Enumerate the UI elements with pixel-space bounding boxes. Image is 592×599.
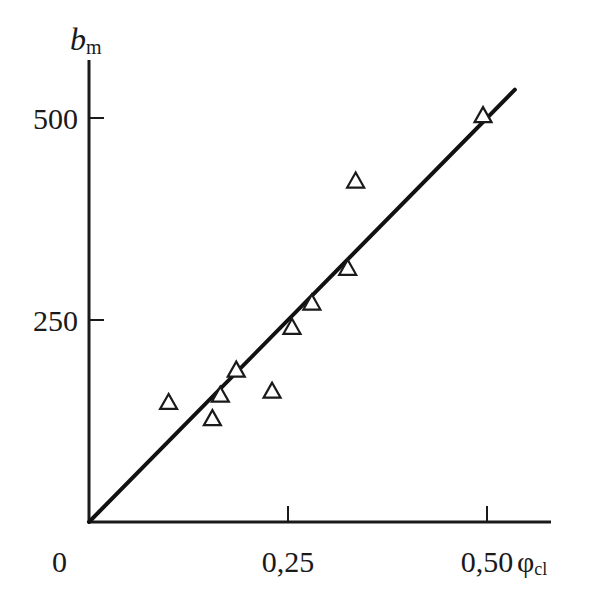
data-points (160, 107, 491, 425)
origin-label: 0 (52, 545, 67, 578)
y-axis-title-sub: m (86, 36, 102, 58)
fit-line (89, 90, 515, 522)
triangle-marker (347, 173, 364, 188)
y-ticks: 250500 (33, 102, 104, 337)
y-tick-label: 250 (33, 304, 78, 337)
y-axis-title-main: b (70, 21, 86, 57)
x-axis-title-main: φ (517, 545, 534, 578)
y-tick-label: 500 (33, 102, 78, 135)
triangle-marker (160, 394, 177, 409)
y-axis-title: bm (70, 21, 102, 58)
x-axis-title: φcl (517, 545, 547, 579)
x-ticks: 0,250,50 (262, 506, 514, 578)
triangle-marker (204, 410, 221, 425)
scatter-chart: 0,250,50 250500 0 bm φcl (0, 0, 592, 599)
triangle-marker (264, 383, 281, 398)
x-tick-label: 0,25 (262, 545, 315, 578)
x-axis-title-sub: cl (534, 559, 547, 579)
regression-line (89, 90, 515, 522)
x-tick-label: 0,50 (461, 545, 514, 578)
